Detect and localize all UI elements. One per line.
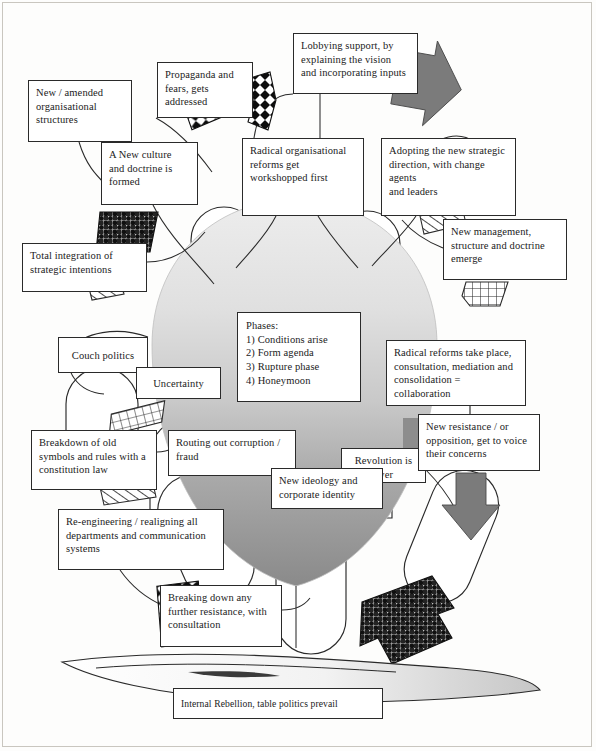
callout-a-new-culture-and-doctrine[interactable]: A New culture and doctrine is formed xyxy=(101,142,198,205)
diagram-page: New / amended organisational structures … xyxy=(0,0,596,751)
callout-new-amended-organisational-structures[interactable]: New / amended organisational structures xyxy=(28,80,132,142)
callout-propaganda-and-fears[interactable]: Propaganda and fears, gets addressed xyxy=(157,62,253,118)
callout-re-engineering-realigning[interactable]: Re-engineering / realigning all departme… xyxy=(58,509,224,570)
callout-new-management-structure-doctrine[interactable]: New management, structure and doctrine e… xyxy=(443,219,567,280)
checker-arrow-lower-right xyxy=(360,576,454,664)
callout-radical-reforms-take-place[interactable]: Radical reforms take place, consultation… xyxy=(386,340,526,406)
callout-new-ideology-and-corporate-identity[interactable]: New ideology and corporate identity xyxy=(271,468,383,509)
callout-couch-politics[interactable]: Couch politics xyxy=(58,337,148,373)
callout-total-integration-of-strategic-intentions[interactable]: Total integration of strategic intention… xyxy=(22,243,147,292)
grid-arrow-right xyxy=(462,282,508,306)
phases-panel[interactable]: Phases: 1) Conditions arise 2) Form agen… xyxy=(237,312,361,402)
callout-uncertainty[interactable]: Uncertainty xyxy=(136,367,221,399)
callout-breakdown-of-old-symbols[interactable]: Breakdown of old symbols and rules with … xyxy=(31,430,157,490)
callout-new-resistance-opposition[interactable]: New resistance / or opposition, get to v… xyxy=(418,414,540,471)
callout-breaking-down-further-resistance[interactable]: Breaking down any further resistance, wi… xyxy=(160,585,282,647)
callout-radical-organisational-reforms[interactable]: Radical organisational reforms get works… xyxy=(242,138,364,216)
callout-adopting-new-strategic-direction[interactable]: Adopting the new strategic direction, wi… xyxy=(381,138,516,216)
callout-internal-rebellion[interactable]: Internal Rebellion, table politics preva… xyxy=(173,688,383,719)
callout-lobbying-support[interactable]: Lobbying support, by explaining the visi… xyxy=(293,33,418,94)
